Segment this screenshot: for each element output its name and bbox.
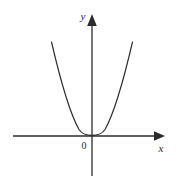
graph-canvas: 0 y x: [0, 0, 176, 190]
origin-label: 0: [82, 140, 87, 151]
y-axis-label: y: [80, 10, 86, 22]
x-axis-arrow-icon: [154, 131, 165, 141]
y-axis-arrow-icon: [87, 14, 97, 26]
parabola-figure: 0 y x: [0, 0, 176, 190]
x-axis-label: x: [158, 142, 164, 154]
